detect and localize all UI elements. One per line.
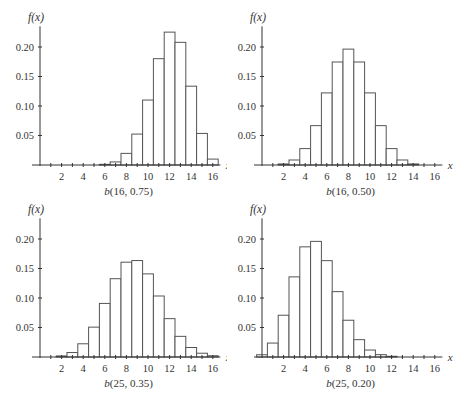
histogram-bar [300, 247, 311, 357]
histogram-bar [386, 149, 397, 165]
x-tick-label: 2 [281, 171, 286, 182]
x-tick-label: 14 [408, 171, 419, 182]
y-tick-label: 0.20 [16, 234, 34, 245]
y-tick-label: 0.15 [238, 71, 256, 82]
x-tick-label: 12 [164, 363, 175, 374]
chart-b16-075: 0.050.100.150.20246810121416f(x)xb(16, 0… [0, 0, 227, 202]
chart-title: b(16, 0.50) [326, 185, 375, 198]
histogram-bar [186, 86, 197, 165]
histogram-bar [164, 32, 175, 165]
chart-b16-050: 0.050.100.150.20246810121416f(x)xb(16, 0… [227, 0, 454, 202]
chart-svg: 0.050.100.150.20246810121416f(x)xb(16, 0… [227, 0, 454, 202]
chart-svg: 0.050.100.150.20246810121416f(x)xb(25, 0… [0, 202, 227, 404]
x-tick-label: 6 [324, 171, 329, 182]
histogram-bar [89, 327, 100, 357]
y-tick-label: 0.10 [16, 101, 34, 112]
histogram-bar [164, 319, 175, 357]
histogram-bar [332, 292, 343, 357]
histogram-bar [300, 149, 311, 165]
x-tick-label: 6 [102, 363, 107, 374]
histogram-bar [321, 93, 332, 165]
histogram-bar [153, 59, 164, 165]
x-tick-label: 8 [124, 363, 129, 374]
x-tick-label: 8 [346, 363, 351, 374]
x-tick-label: 2 [59, 363, 64, 374]
y-tick-label: 0.05 [16, 322, 34, 333]
chart-title: b(25, 0.35) [104, 377, 153, 390]
chart-svg: 0.050.100.150.20246810121416f(x)xb(25, 0… [227, 202, 454, 404]
chart-title: b(25, 0.20) [326, 377, 375, 390]
x-tick-label: 10 [143, 171, 154, 182]
x-axis-label: x [447, 159, 453, 171]
x-tick-label: 8 [124, 171, 129, 182]
y-tick-label: 0.05 [16, 130, 34, 141]
chart-title: b(16, 0.75) [104, 185, 153, 198]
histogram-bar [278, 315, 289, 357]
x-tick-label: 4 [81, 363, 87, 374]
x-tick-label: 10 [365, 363, 376, 374]
histogram-bar [175, 336, 186, 357]
y-tick-label: 0.05 [238, 130, 256, 141]
y-axis-label: f(x) [28, 203, 44, 216]
y-tick-label: 0.20 [238, 42, 256, 53]
x-tick-label: 14 [186, 171, 197, 182]
chart-b25-020: 0.050.100.150.20246810121416f(x)xb(25, 0… [227, 202, 454, 404]
x-tick-label: 12 [386, 363, 397, 374]
histogram-bar [143, 100, 154, 165]
histogram-bar [143, 274, 154, 357]
chart-svg: 0.050.100.150.20246810121416f(x)xb(16, 0… [0, 0, 227, 202]
histogram-bar [332, 62, 343, 165]
x-tick-label: 14 [408, 363, 419, 374]
histogram-bar [343, 49, 354, 165]
histogram-bar [354, 62, 365, 165]
x-tick-label: 2 [59, 171, 64, 182]
y-tick-label: 0.20 [238, 234, 256, 245]
x-tick-label: 16 [430, 363, 441, 374]
x-tick-label: 4 [81, 171, 87, 182]
x-tick-label: 10 [143, 363, 154, 374]
y-tick-label: 0.15 [16, 263, 34, 274]
histogram-bar [110, 279, 121, 357]
x-tick-label: 14 [186, 363, 197, 374]
x-tick-label: 4 [303, 363, 309, 374]
x-tick-label: 10 [365, 171, 376, 182]
histogram-bar [375, 126, 386, 165]
x-tick-label: 4 [303, 171, 309, 182]
x-tick-label: 8 [346, 171, 351, 182]
histogram-bar [153, 296, 164, 357]
x-tick-label: 12 [164, 171, 175, 182]
y-tick-label: 0.15 [16, 71, 34, 82]
y-tick-label: 0.05 [238, 322, 256, 333]
chart-b25-035: 0.050.100.150.20246810121416f(x)xb(25, 0… [0, 202, 227, 404]
y-axis-label: f(x) [28, 11, 44, 24]
histogram-bar [132, 134, 143, 165]
y-axis-label: f(x) [250, 11, 266, 24]
y-axis-label: f(x) [250, 203, 266, 216]
histogram-bar [321, 261, 332, 357]
histogram-bar [267, 343, 278, 357]
x-tick-label: 16 [208, 171, 219, 182]
x-tick-label: 16 [430, 171, 441, 182]
y-tick-label: 0.10 [16, 293, 34, 304]
histogram-bar [99, 303, 110, 357]
x-axis-label: x [447, 351, 453, 363]
x-tick-label: 6 [102, 171, 107, 182]
histogram-bar [365, 93, 376, 165]
histogram-bar [343, 320, 354, 357]
histogram-bar [311, 241, 322, 357]
histogram-bar [311, 126, 322, 165]
histogram-bar [354, 340, 365, 357]
histogram-bar [121, 262, 132, 357]
x-tick-label: 12 [386, 171, 397, 182]
y-tick-label: 0.15 [238, 263, 256, 274]
x-tick-label: 16 [208, 363, 219, 374]
y-tick-label: 0.10 [238, 101, 256, 112]
histogram-bar [132, 261, 143, 357]
y-tick-label: 0.10 [238, 293, 256, 304]
histogram-bar [175, 42, 186, 165]
x-tick-label: 6 [324, 363, 329, 374]
y-tick-label: 0.20 [16, 42, 34, 53]
histogram-bar [289, 277, 300, 357]
x-tick-label: 2 [281, 363, 286, 374]
histogram-bar [197, 133, 208, 165]
